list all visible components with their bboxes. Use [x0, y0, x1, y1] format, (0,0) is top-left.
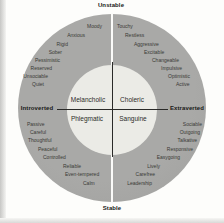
trait-label-excitable: Excitable: [144, 49, 164, 56]
trait-label-controlled: Controlled: [43, 154, 66, 161]
trait-label-talkative: Talkative: [178, 137, 197, 144]
trait-label-even-tempered: Even-tempered: [65, 171, 99, 178]
trait-label-changeable: Changeable: [152, 57, 179, 64]
trait-label-carefree: Carefree: [136, 171, 155, 178]
trait-label-unsociable: Unsociable: [23, 73, 48, 80]
trait-label-reliable: Reliable: [63, 163, 81, 170]
trait-label-careful: Careful: [30, 129, 46, 136]
trait-label-impulsive: Impulsive: [161, 65, 182, 72]
ring-divider-bottom: [111, 155, 113, 203]
trait-label-moody: Moody: [87, 23, 102, 30]
ring-divider-top: [111, 13, 113, 66]
trait-label-sociable: Sociable: [183, 121, 202, 128]
temperament-label-melancholic: Melancholic: [71, 96, 105, 104]
axis-label-extraverted: Extraverted: [170, 105, 204, 112]
trait-label-thoughtful: Thoughtful: [28, 137, 52, 144]
trait-label-lively: Lively: [147, 163, 160, 170]
trait-label-pessimistic: Pessimistic: [35, 57, 60, 64]
trait-label-restless: Restless: [125, 32, 144, 39]
trait-label-quiet: Quiet: [32, 81, 44, 88]
axis-label-stable: Stable: [103, 205, 122, 212]
temperament-label-phlegmatic: Phlegmatic: [71, 115, 103, 123]
trait-label-anxious: Anxious: [67, 32, 85, 39]
trait-label-touchy: Touchy: [117, 23, 133, 30]
axis-label-introverted: Introverted: [21, 105, 53, 112]
axis-label-unstable: Unstable: [98, 2, 124, 9]
stability-axis-line: [112, 62, 113, 157]
trait-label-reserved: Reserved: [31, 65, 52, 72]
trait-label-sober: Sober: [49, 49, 62, 56]
trait-label-optimistic: Optimistic: [168, 73, 190, 80]
trait-label-outgoing: Outgoing: [180, 129, 200, 136]
trait-label-leadership: Leadership: [127, 180, 152, 187]
trait-label-rigid: Rigid: [57, 41, 68, 48]
trait-label-active: Active: [176, 81, 190, 88]
temperament-label-choleric: Choleric: [120, 96, 144, 104]
trait-label-responsive: Responsive: [167, 146, 193, 153]
trait-label-peaceful: Peaceful: [38, 146, 57, 153]
trait-label-aggressive: Aggressive: [134, 41, 159, 48]
page-edge-bottom: [0, 218, 224, 223]
temperament-label-sanguine: Sanguine: [119, 115, 146, 123]
trait-label-calm: Calm: [83, 180, 95, 187]
trait-label-easygoing: Easygoing: [157, 154, 180, 161]
trait-label-passive: Passive: [27, 121, 45, 128]
eysenck-temperament-wheel: Unstable Stable Introverted Extraverted …: [0, 0, 224, 223]
page-edge-left: [0, 0, 6, 223]
